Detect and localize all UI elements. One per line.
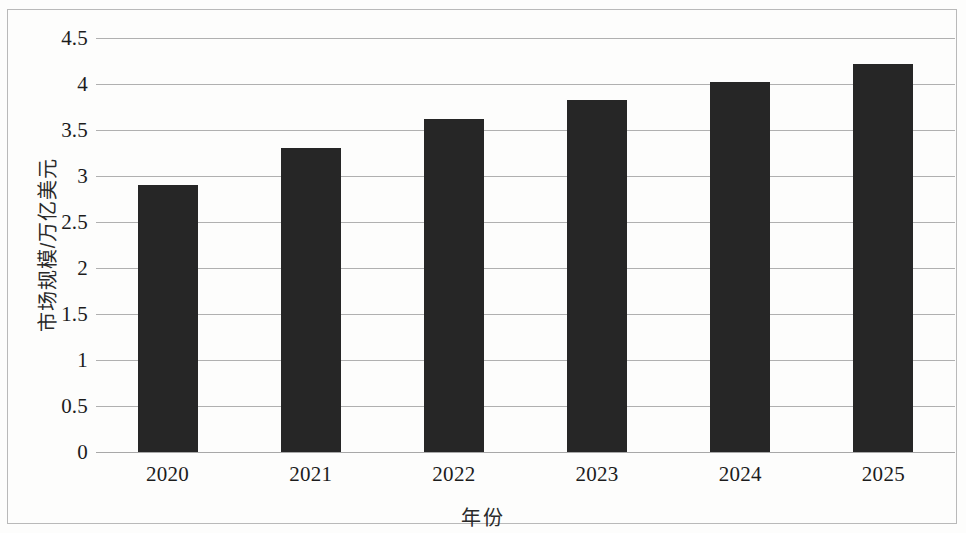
bar[interactable] <box>567 100 627 452</box>
gridline <box>96 314 955 315</box>
gridline <box>96 38 955 39</box>
gridline <box>96 406 955 407</box>
x-axis-tick-label: 2024 <box>680 462 800 487</box>
gridline <box>96 360 955 361</box>
x-axis-tick-label: 2022 <box>394 462 514 487</box>
x-axis-tick-label: 2020 <box>108 462 228 487</box>
x-axis-tick-label: 2023 <box>537 462 657 487</box>
plot-area <box>96 38 955 452</box>
chart-figure: 00.511.522.533.544.5 2020202120222023202… <box>0 0 966 533</box>
x-axis-title: 年份 <box>0 502 966 531</box>
gridline <box>96 84 955 85</box>
y-axis-title: 市场规模/万亿美元 <box>28 38 68 452</box>
bar[interactable] <box>138 185 198 452</box>
x-axis-tick-label: 2021 <box>251 462 371 487</box>
gridline <box>96 452 955 453</box>
gridline <box>96 176 955 177</box>
gridline <box>96 130 955 131</box>
gridline <box>96 268 955 269</box>
gridline <box>96 222 955 223</box>
bar[interactable] <box>710 82 770 452</box>
bar[interactable] <box>424 119 484 452</box>
x-axis-tick-label: 2025 <box>823 462 943 487</box>
bar[interactable] <box>281 148 341 452</box>
bar[interactable] <box>853 64 913 452</box>
